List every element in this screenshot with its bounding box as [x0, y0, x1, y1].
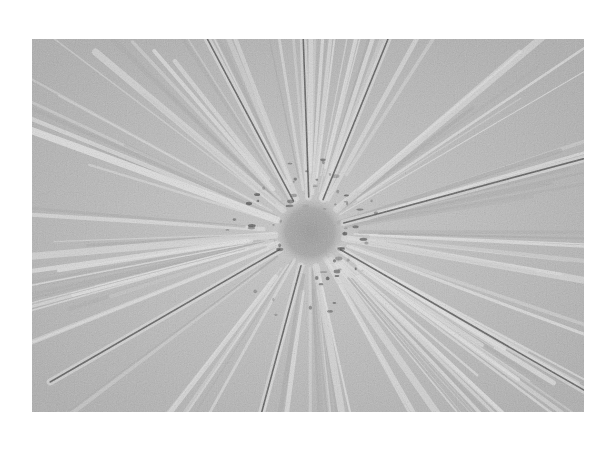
radial-pattern-graphic [32, 39, 584, 412]
micrograph-image [32, 39, 584, 412]
